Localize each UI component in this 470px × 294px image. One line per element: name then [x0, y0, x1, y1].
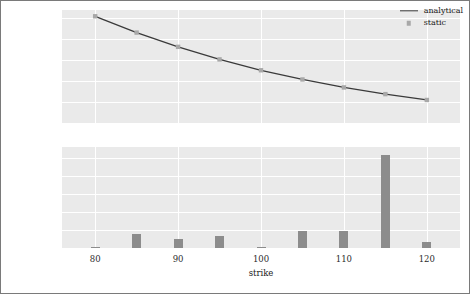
- bar: [215, 236, 224, 248]
- data-point-marker: [383, 92, 387, 96]
- legend-item-static: static: [399, 17, 463, 29]
- x-axis-label: strike: [249, 268, 274, 278]
- gridline: [427, 147, 428, 248]
- figure-canvas: 0510152025 European call option value an…: [0, 0, 470, 294]
- legend-marker-swatch-icon: [399, 18, 419, 28]
- bar: [298, 231, 307, 248]
- data-point-marker: [93, 14, 97, 18]
- gridline: [261, 147, 262, 248]
- x-tick-label: 90: [173, 254, 184, 264]
- data-point-marker: [342, 85, 346, 89]
- bar: [422, 242, 431, 248]
- data-point-marker: [425, 98, 429, 102]
- x-tick-label: 120: [419, 254, 435, 264]
- x-tick-label: 100: [253, 254, 269, 264]
- analytical-line: [95, 16, 427, 100]
- bar: [132, 234, 141, 248]
- x-tick-label: 80: [90, 254, 101, 264]
- bar: [91, 247, 100, 248]
- gridline: [95, 147, 96, 248]
- x-tick-label: 110: [336, 254, 352, 264]
- data-point-marker: [259, 68, 263, 72]
- data-point-marker: [300, 77, 304, 81]
- legend-label-static: static: [424, 17, 446, 29]
- bar: [381, 155, 390, 248]
- data-point-marker: [217, 57, 221, 61]
- data-point-marker: [134, 30, 138, 34]
- gridline: [178, 147, 179, 248]
- data-point-marker: [176, 45, 180, 49]
- legend-line-swatch-icon: [399, 6, 419, 16]
- bar: [174, 239, 183, 248]
- lower-plot-area: [62, 147, 460, 248]
- legend-label-analytical: analytical: [424, 5, 463, 17]
- legend: analytical static: [399, 5, 463, 29]
- legend-item-analytical: analytical: [399, 5, 463, 17]
- bar: [257, 247, 266, 248]
- bar: [339, 231, 348, 248]
- static-markers: [93, 14, 429, 102]
